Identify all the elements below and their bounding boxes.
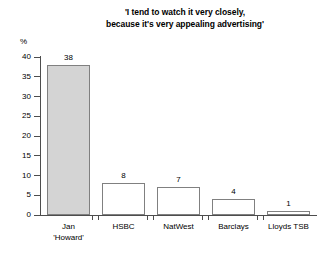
bar xyxy=(212,199,255,215)
y-tick-label: 40 xyxy=(0,53,31,61)
chart-title-line-1: 'I tend to watch it very closely, xyxy=(60,7,310,19)
chart-title: 'I tend to watch it very closely, becaus… xyxy=(60,7,310,30)
y-tick-mark xyxy=(34,116,40,117)
bar-chart: 'I tend to watch it very closely, becaus… xyxy=(0,0,333,253)
x-tick-mark xyxy=(147,216,148,220)
y-axis-unit-label: % xyxy=(20,37,27,46)
y-tick-mark xyxy=(34,136,40,137)
bar xyxy=(47,65,90,215)
x-tick-mark xyxy=(153,216,154,220)
y-tick-label: 25 xyxy=(0,112,31,120)
bar xyxy=(157,187,200,215)
bar-value-label: 4 xyxy=(212,188,255,196)
x-tick-mark xyxy=(98,216,99,220)
bar-value-label: 7 xyxy=(157,176,200,184)
category-label: Lloyds TSB xyxy=(255,222,322,233)
category-label-line: Lloyds TSB xyxy=(255,222,322,233)
category-label-line: 'Howard' xyxy=(35,233,102,244)
y-tick-label: 0 xyxy=(0,211,31,219)
y-tick-mark xyxy=(34,155,40,156)
y-tick-mark xyxy=(34,175,40,176)
bar-value-label: 38 xyxy=(47,54,90,62)
y-tick-mark xyxy=(34,215,40,216)
y-tick-mark xyxy=(34,96,40,97)
y-tick-mark xyxy=(34,57,40,58)
y-tick-mark xyxy=(34,195,40,196)
x-tick-mark xyxy=(257,216,258,220)
x-tick-mark xyxy=(202,216,203,220)
y-tick-label: 20 xyxy=(0,132,31,140)
x-axis-line xyxy=(40,215,317,216)
x-tick-mark xyxy=(92,216,93,220)
bar-value-label: 8 xyxy=(102,172,145,180)
y-tick-label: 5 xyxy=(0,191,31,199)
x-tick-mark xyxy=(263,216,264,220)
bar xyxy=(102,183,145,215)
bar-value-label: 1 xyxy=(267,200,310,208)
y-tick-label: 15 xyxy=(0,152,31,160)
plot-area xyxy=(41,57,316,215)
y-tick-label: 10 xyxy=(0,172,31,180)
y-tick-label: 30 xyxy=(0,93,31,101)
bar xyxy=(267,211,310,215)
chart-title-line-2: because it's very appealing advertising' xyxy=(60,19,310,31)
x-tick-mark xyxy=(208,216,209,220)
y-tick-mark xyxy=(34,76,40,77)
y-tick-label: 35 xyxy=(0,73,31,81)
